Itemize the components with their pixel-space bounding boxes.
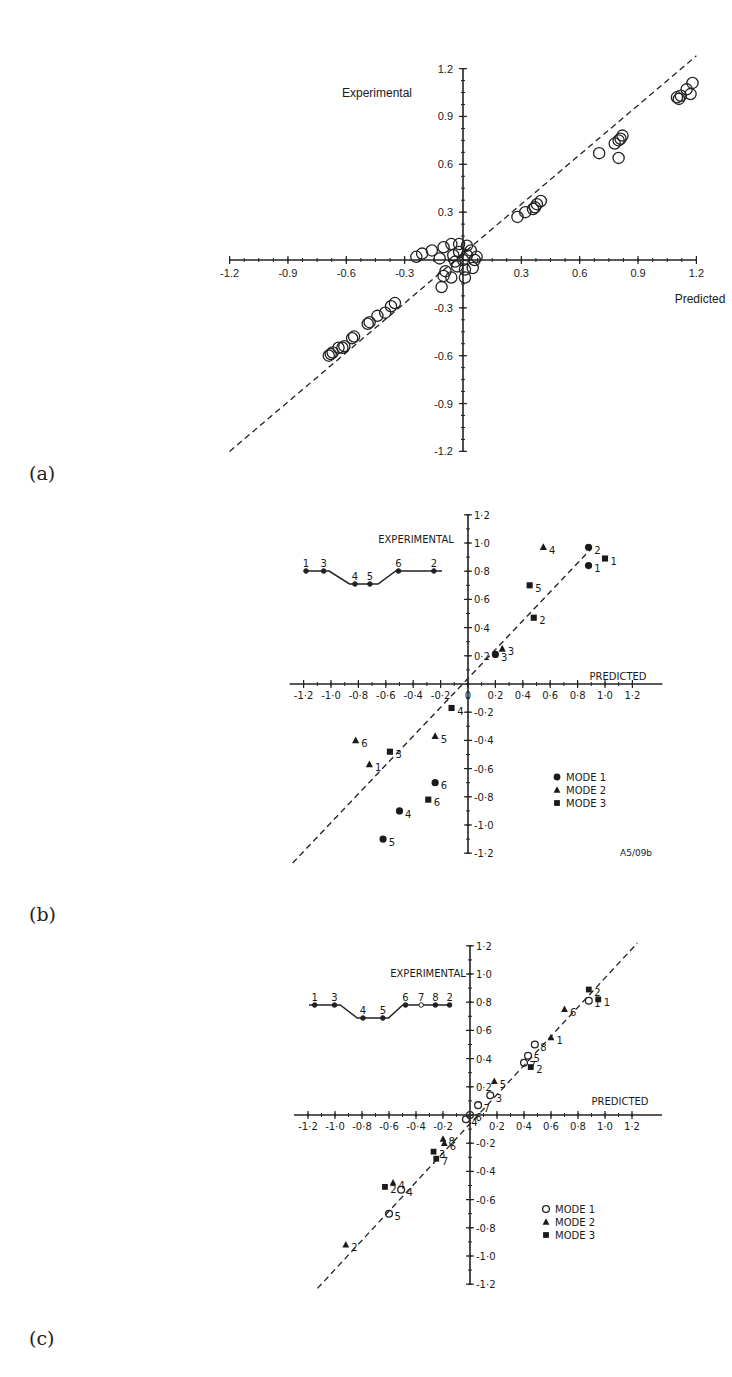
point-label: 4: [405, 809, 411, 820]
x-tick-label: -0·8: [349, 690, 369, 701]
point-label: 4: [457, 706, 463, 717]
y-tick-label: -0·8: [474, 792, 494, 803]
x-tick-label: 0.3: [514, 267, 529, 279]
profile-node: [361, 1016, 366, 1021]
x-tick-label: 1·0: [597, 1121, 613, 1132]
profile-node-label: 5: [380, 1005, 386, 1016]
x-tick-label: 1·2: [624, 690, 640, 701]
point-label: 7: [484, 1103, 490, 1114]
triangle-marker: [540, 543, 547, 550]
profile-node-label: 6: [402, 992, 408, 1003]
open-circle-marker: [594, 148, 605, 159]
y-axis-title: EXPERIMENTAL: [390, 968, 466, 979]
filled-circle-marker: [585, 544, 592, 551]
filled-circle-marker: [396, 807, 403, 814]
y-tick-label: 0·2: [476, 1082, 492, 1093]
legend-entry: MODE 3: [566, 798, 606, 809]
square-marker: [425, 797, 431, 803]
filled-circle-marker: [585, 562, 592, 569]
point-label: 4: [407, 1187, 413, 1198]
profile-node: [321, 569, 326, 574]
inset-profile: 13456782: [309, 992, 453, 1020]
x-tick-label: 0·6: [542, 690, 558, 701]
x-tick-label: -1·2: [298, 1121, 318, 1132]
point-label: 5: [441, 734, 447, 745]
x-axis-title: PREDICTED: [589, 671, 646, 682]
profile-node: [332, 1003, 337, 1008]
square-marker: [595, 996, 601, 1002]
legend-entry: MODE 1: [555, 1204, 595, 1215]
point-label: 1: [594, 563, 600, 574]
y-tick-label: 0·6: [476, 1025, 492, 1036]
y-tick-label: 1·0: [474, 538, 490, 549]
y-tick-label: 1.2: [438, 63, 453, 75]
y-tick-label: -0·6: [476, 1195, 496, 1206]
y-tick-label: -0·4: [474, 735, 494, 746]
point-label: 1: [375, 762, 381, 773]
x-tick-label: 0: [465, 690, 471, 701]
x-tick-label: -0·6: [379, 1121, 399, 1132]
point-label: 3: [501, 652, 507, 663]
x-tick-label: 1·0: [597, 690, 613, 701]
x-tick-label: -0·4: [403, 690, 423, 701]
x-tick-label: 0·8: [570, 690, 586, 701]
y-axis-title: Experimental: [342, 86, 412, 100]
profile-node: [304, 569, 309, 574]
profile-node-label: 6: [395, 558, 401, 569]
triangle-marker: [342, 1241, 349, 1247]
inset-profile: 134562: [303, 558, 442, 586]
profile-node-label: 2: [446, 992, 452, 1003]
series-data: [323, 77, 698, 361]
y-tick-label: -0·2: [476, 1138, 496, 1149]
point-label: 4: [549, 545, 555, 556]
x-tick-label: -1·0: [321, 690, 341, 701]
y-tick-label: -0.9: [434, 398, 453, 410]
point-label: 2: [351, 1242, 357, 1253]
x-tick-label: 1·2: [624, 1121, 640, 1132]
x-tick-label: -0.6: [337, 267, 356, 279]
x-tick-label: -0.3: [395, 267, 414, 279]
square-marker: [431, 1149, 437, 1155]
x-axis-title: PREDICTED: [591, 1096, 648, 1107]
square-marker: [531, 615, 537, 621]
series-mode-3: 212372: [382, 987, 610, 1196]
point-label: 2: [536, 1064, 542, 1075]
y-tick-label: 0.6: [438, 158, 453, 170]
y-tick-label: -0.6: [434, 350, 453, 362]
x-tick-label: -0·4: [406, 1121, 426, 1132]
profile-node-label: 1: [311, 992, 317, 1003]
square-marker: [449, 705, 455, 711]
point-label: 6: [441, 780, 447, 791]
point-label: 3: [508, 646, 514, 657]
x-tick-label: -1.2: [220, 267, 239, 279]
profile-node: [419, 1003, 424, 1008]
triangle-marker: [491, 1077, 498, 1083]
square-marker: [543, 1232, 549, 1238]
figure-code-annotation: A5/09b: [620, 848, 652, 858]
point-label: 2: [390, 1184, 396, 1195]
legend-entry: MODE 1: [566, 772, 606, 783]
point-label: 7: [442, 1156, 448, 1167]
triangle-marker: [366, 760, 373, 767]
x-tick-label: -1·2: [294, 690, 314, 701]
y-tick-label: 0·8: [474, 566, 490, 577]
square-marker: [382, 1184, 388, 1190]
chart-c: -1·2-1·0-0·8-0·6-0·4-0·20·20·40·60·81·01…: [294, 941, 662, 1290]
point-label: 1: [611, 556, 617, 567]
x-tick-label: -0·6: [376, 690, 396, 701]
profile-node-label: 3: [331, 992, 337, 1003]
open-circle-marker: [613, 152, 624, 163]
open-circle-marker: [525, 1052, 532, 1059]
x-tick-label: 0·4: [516, 1121, 532, 1132]
open-circle-marker: [463, 1116, 470, 1123]
profile-node: [432, 569, 437, 574]
point-label: 6: [450, 1141, 456, 1152]
x-tick-label: 0·2: [487, 690, 503, 701]
y-tick-label: -1·0: [474, 820, 494, 831]
profile-node: [433, 1003, 438, 1008]
point-label: 5: [500, 1079, 506, 1090]
y-tick-label: -1.2: [434, 445, 453, 457]
square-marker: [528, 1064, 534, 1070]
x-tick-label: -1·0: [325, 1121, 345, 1132]
point-label: 5: [394, 1211, 400, 1222]
